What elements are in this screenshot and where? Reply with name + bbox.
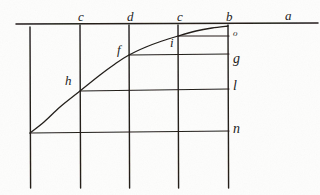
figure-canvas: cdcbaoglnhfi xyxy=(0,0,320,195)
vertical-left-edge xyxy=(30,27,31,188)
vertical-c xyxy=(80,25,81,188)
vertical-b xyxy=(228,25,229,188)
right-label-o-0: o xyxy=(233,29,238,38)
geometric-diagram-svg xyxy=(0,0,320,195)
right-label-l-2: l xyxy=(233,79,237,93)
top-label-d-1: d xyxy=(127,10,134,23)
curve-label-h-0: h xyxy=(65,74,72,87)
curve-label-f-1: f xyxy=(117,43,121,56)
top-label-c-0: c xyxy=(78,10,84,23)
curve-label-i-2: i xyxy=(170,36,174,49)
horizontal-l xyxy=(80,89,229,91)
right-label-g-1: g xyxy=(233,52,240,66)
vertical-d xyxy=(129,25,130,188)
top-label-a-4: a xyxy=(285,9,292,22)
right-label-n-3: n xyxy=(233,122,240,136)
horizontal-axis-ab xyxy=(16,23,318,24)
horizontal-g xyxy=(129,54,229,55)
axis-group xyxy=(16,23,318,24)
vertical-e xyxy=(178,25,179,188)
top-label-c-2: c xyxy=(177,10,183,23)
top-label-b-3: b xyxy=(226,10,233,23)
